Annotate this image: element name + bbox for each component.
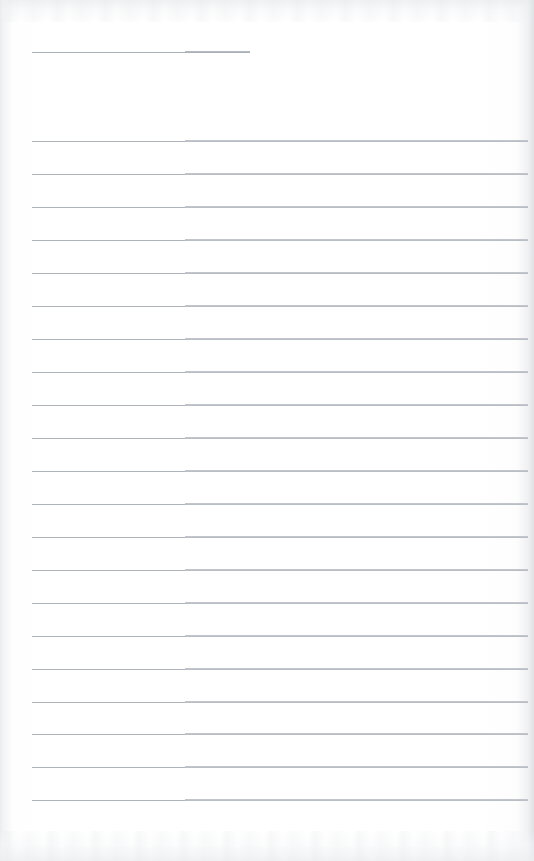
ruled-line [32,471,528,472]
ruled-line [32,669,528,670]
ruled-line-left-segment [32,603,185,604]
ruled-line-left-segment [32,800,185,801]
ruled-line-right-segment [185,668,528,669]
ruled-line-right-segment [185,239,528,240]
paper-background [0,0,534,861]
ruled-line-left-segment [32,669,185,670]
ruled-line-left-segment [32,141,185,142]
ruled-line-right-segment [185,470,528,471]
ruled-line-right-segment [185,371,528,372]
ruled-line [32,603,528,604]
ruled-line-left-segment [32,405,185,406]
ruled-line-left-segment [32,702,185,703]
notebook-page [0,0,534,861]
ruled-line [32,570,528,571]
ruled-line-left-segment [32,767,185,768]
ruled-line [32,767,528,768]
ruled-line-left-segment [32,570,185,571]
ruled-line [32,504,528,505]
ruled-line-right-segment [185,404,528,405]
ruled-line-right-segment [185,437,528,438]
ruled-line-left-segment [32,306,185,307]
ruled-line-left-segment [32,174,185,175]
ruled-line-right-segment [185,503,528,504]
scan-artifact-top-band [0,0,534,22]
ruled-line [32,405,528,406]
ruled-line-left-segment [32,504,185,505]
ruled-line [32,372,528,373]
ruled-line-left-segment [32,207,185,208]
header-rule-right-segment [185,51,250,52]
ruled-line-left-segment [32,438,185,439]
ruled-line [32,734,528,735]
ruled-line [32,438,528,439]
ruled-line [32,537,528,538]
ruled-line [32,339,528,340]
ruled-line [32,240,528,241]
ruled-line-right-segment [185,173,528,174]
ruled-line-right-segment [185,569,528,570]
ruled-line [32,800,528,801]
ruled-line-right-segment [185,733,528,734]
ruled-line-right-segment [185,635,528,636]
ruled-line [32,306,528,307]
ruled-line-right-segment [185,602,528,603]
ruled-line-right-segment [185,766,528,767]
ruled-line-left-segment [32,240,185,241]
ruled-line-left-segment [32,636,185,637]
ruled-line-right-segment [185,140,528,141]
ruled-line [32,273,528,274]
ruled-line-right-segment [185,701,528,702]
ruled-line-left-segment [32,471,185,472]
ruled-line-right-segment [185,799,528,800]
ruled-line-right-segment [185,206,528,207]
header-rule [32,52,250,53]
ruled-line-right-segment [185,272,528,273]
ruled-line-left-segment [32,273,185,274]
page-edge-shadow-right [518,0,534,861]
ruled-line-left-segment [32,372,185,373]
ruled-line [32,702,528,703]
ruled-line-left-segment [32,339,185,340]
ruled-line [32,141,528,142]
ruled-line-left-segment [32,537,185,538]
ruled-line-right-segment [185,305,528,306]
page-edge-shadow-left [0,0,12,861]
ruled-line-right-segment [185,536,528,537]
ruled-line-right-segment [185,338,528,339]
ruled-line-left-segment [32,734,185,735]
ruled-line [32,207,528,208]
ruled-line [32,174,528,175]
scan-artifact-bottom-band [0,831,534,861]
ruled-line [32,636,528,637]
